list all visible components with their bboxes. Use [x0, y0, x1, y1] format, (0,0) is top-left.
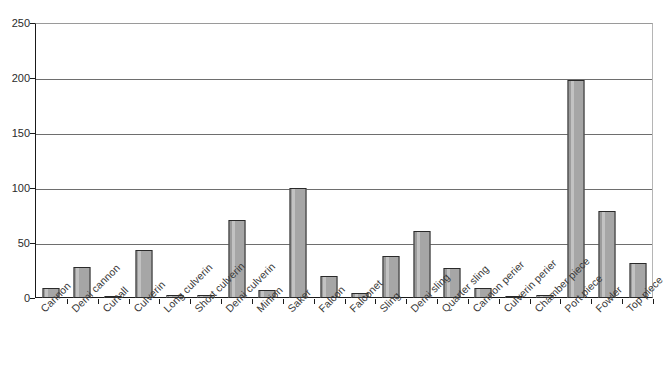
x-axis-tick-mark	[530, 299, 531, 304]
bar-slot	[591, 23, 622, 298]
x-axis-tick-mark	[221, 299, 222, 304]
bar-slot	[622, 23, 653, 298]
bar-slot	[345, 23, 376, 298]
x-axis-tick-mark	[345, 299, 346, 304]
bar[interactable]	[290, 188, 307, 298]
x-axis-tick-mark	[375, 299, 376, 304]
bars-layer	[36, 23, 653, 298]
x-axis-ticks	[36, 299, 653, 305]
x-axis-tick-mark	[622, 299, 623, 304]
bar-slot	[221, 23, 252, 298]
bar-slot	[67, 23, 98, 298]
x-axis-tick-mark	[406, 299, 407, 304]
x-axis-tick-mark	[98, 299, 99, 304]
bar-slot	[499, 23, 530, 298]
bar-slot	[437, 23, 468, 298]
bar-slot	[375, 23, 406, 298]
x-axis-tick-mark	[283, 299, 284, 304]
bar-slot	[530, 23, 561, 298]
bar-slot	[468, 23, 499, 298]
bar-slot	[36, 23, 67, 298]
x-axis-tick-mark	[437, 299, 438, 304]
bar-slot	[190, 23, 221, 298]
x-axis-tick-mark	[653, 299, 654, 304]
bar-slot	[314, 23, 345, 298]
bar-slot	[252, 23, 283, 298]
y-axis-ticks	[0, 23, 35, 298]
bar-slot	[159, 23, 190, 298]
x-axis-tick-mark	[560, 299, 561, 304]
x-axis-tick-mark	[190, 299, 191, 304]
x-axis-tick-mark	[159, 299, 160, 304]
x-axis-tick-mark	[591, 299, 592, 304]
x-axis-tick-mark	[468, 299, 469, 304]
bar-chart: 050100150200250 CannonDemi cannonCurtall…	[0, 0, 665, 383]
x-axis-tick-mark	[499, 299, 500, 304]
bar-slot	[283, 23, 314, 298]
x-axis-tick-mark	[67, 299, 68, 304]
bar-slot	[406, 23, 437, 298]
bar-slot	[129, 23, 160, 298]
y-axis-tick-mark	[30, 298, 35, 299]
x-axis-tick-mark	[129, 299, 130, 304]
x-axis-tick-mark	[252, 299, 253, 304]
bar-slot	[98, 23, 129, 298]
x-axis-tick-mark	[314, 299, 315, 304]
x-axis-labels: CannonDemi cannonCurtallCulverinLong cul…	[36, 306, 653, 383]
